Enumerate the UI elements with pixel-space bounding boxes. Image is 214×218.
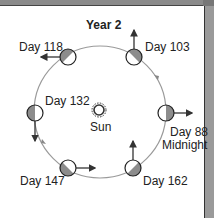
body-day-103 <box>126 30 142 65</box>
label-day-162: Day 162 <box>143 175 188 188</box>
label-day-147: Day 147 <box>20 175 65 188</box>
sun-icon <box>92 103 106 117</box>
frame-side <box>204 0 214 218</box>
body-day-132 <box>27 105 43 141</box>
sun-label: Sun <box>90 121 111 134</box>
body-day-88 <box>158 105 192 121</box>
orbit-direction-arrow-icon <box>154 75 159 80</box>
frame-corner <box>203 0 214 6</box>
orbit-ring <box>34 46 166 178</box>
label-day-132: Day 132 <box>45 95 90 108</box>
diagram-title: Year 2 <box>86 19 121 32</box>
body-day-162 <box>125 141 141 176</box>
label-day-103: Day 103 <box>145 41 190 54</box>
label-day-118: Day 118 <box>19 41 63 54</box>
label-midnight: Midnight <box>162 139 207 152</box>
